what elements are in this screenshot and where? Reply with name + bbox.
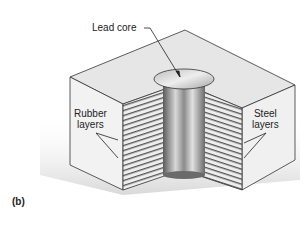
- figure-part-label: (b): [12, 196, 25, 207]
- rubber-label-line2: layers: [74, 119, 107, 130]
- lead-core-label: Lead core: [92, 22, 136, 33]
- steel-label-line1: Steel: [252, 108, 279, 119]
- lead-core-cylinder: [163, 80, 205, 175]
- steel-label-line2: layers: [252, 119, 279, 130]
- rubber-label-line1: Rubber: [74, 108, 107, 119]
- lead-core-top: [154, 69, 214, 89]
- rubber-layers-label: Rubber layers: [74, 108, 107, 130]
- steel-layers-label: Steel layers: [252, 108, 279, 130]
